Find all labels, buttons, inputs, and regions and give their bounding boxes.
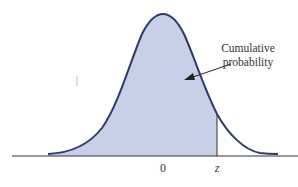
- chart-canvas: [0, 0, 298, 187]
- annotation-label: Cumulative probability: [221, 41, 275, 69]
- annotation-line-1: Cumulative: [221, 41, 275, 55]
- x-tick-label-z: z: [215, 162, 220, 174]
- x-tick-label-zero: 0: [160, 162, 166, 174]
- annotation-line-2: probability: [221, 55, 275, 69]
- cumulative-probability-area: [48, 14, 217, 156]
- normal-distribution-chart: 0 z Cumulative probability: [0, 0, 298, 187]
